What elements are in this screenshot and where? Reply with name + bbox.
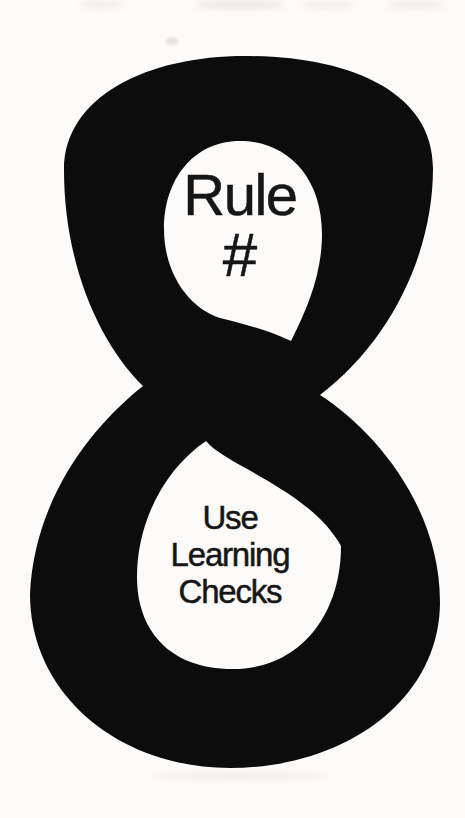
rule-title-label: Use Learning Checks [80,499,380,610]
rule-title-line-3: Checks [80,573,380,610]
numeral-8-figure: 8 [0,0,465,818]
rule-title-line-1: Use [80,499,380,536]
rule-word-label: Rule [90,166,390,224]
book-page: 8 Rule # Use Learning Checks [0,0,465,818]
number-sign-label: # [90,224,390,286]
rule-title-line-2: Learning [80,536,380,573]
